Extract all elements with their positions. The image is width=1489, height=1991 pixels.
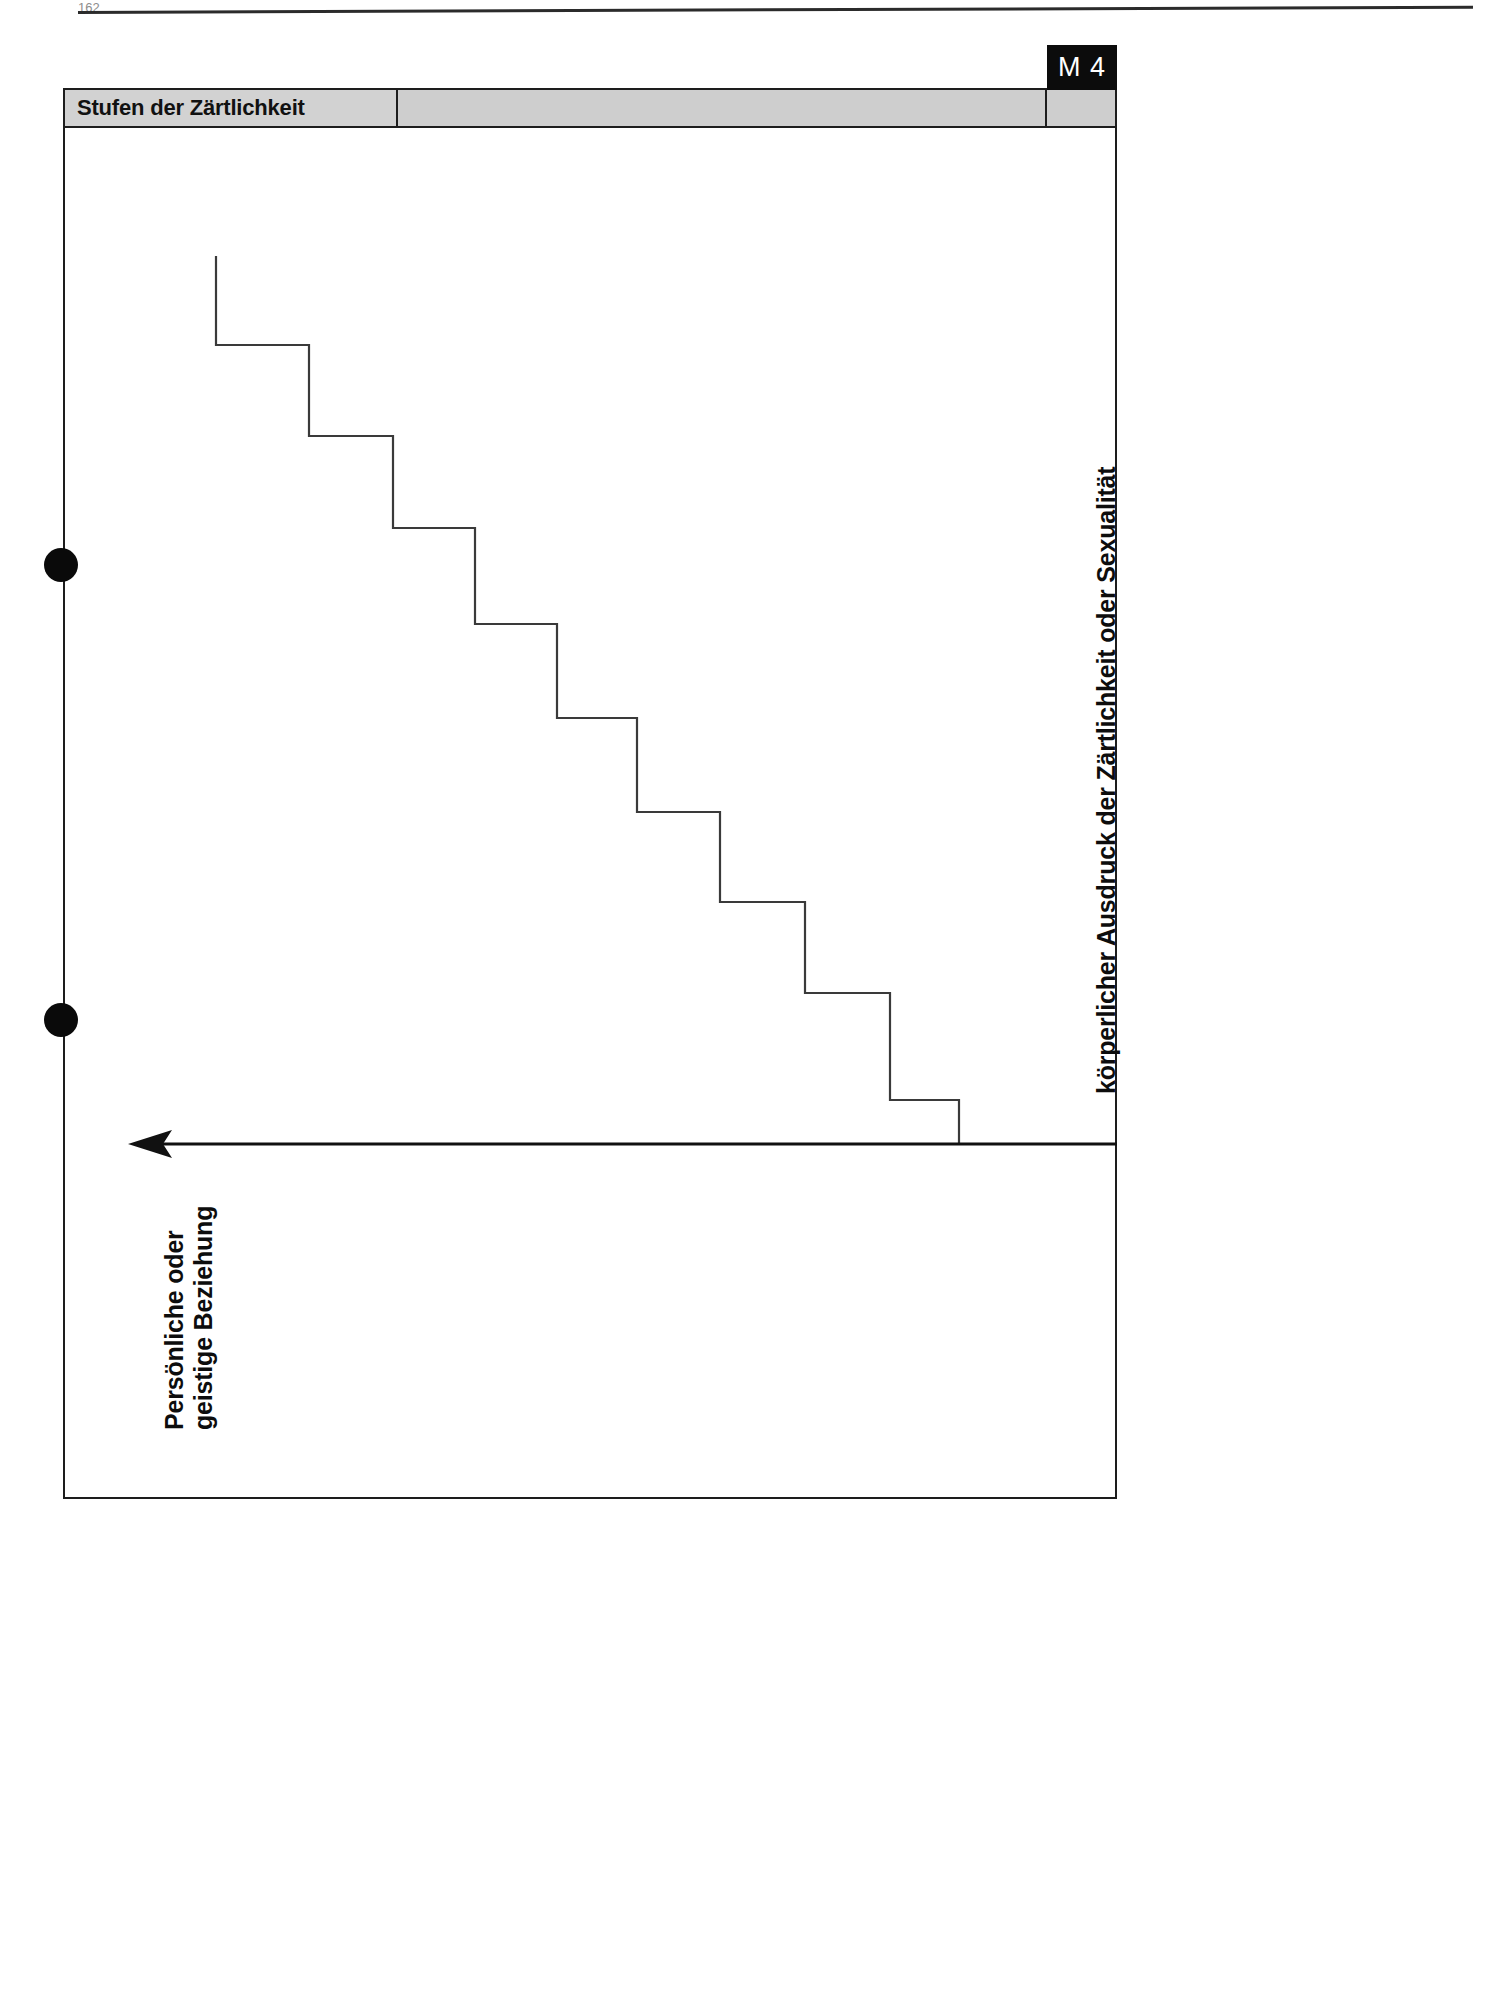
- y-axis-label: körperlicher Ausdruck der Zärtlichkeit o…: [1092, 467, 1121, 1094]
- staircase-path: [216, 256, 959, 1144]
- x-axis-label: Persönliche oder geistige Beziehung: [160, 1130, 360, 1430]
- x-axis-label-line-1: Persönliche oder: [160, 1130, 189, 1430]
- top-rule: [78, 6, 1473, 14]
- material-code-badge: M 4: [1047, 45, 1117, 90]
- x-axis-label-line-2: geistige Beziehung: [189, 1130, 218, 1430]
- worksheet-page: 162 Stufen der Zärtlichkeit M 4 körperli…: [0, 0, 1489, 1991]
